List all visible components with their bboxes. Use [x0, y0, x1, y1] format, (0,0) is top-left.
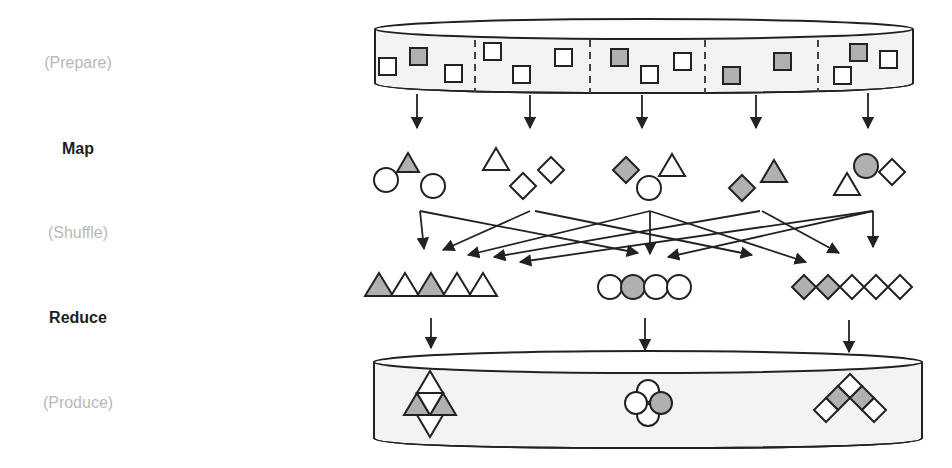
reduce-group-triangles — [365, 273, 497, 296]
diagram-canvas — [0, 0, 952, 468]
output-store-cylinder — [374, 351, 922, 448]
reduce-group-diamonds — [792, 275, 912, 299]
shuffle-arrows — [420, 211, 873, 262]
map-output-5 — [834, 154, 905, 195]
map-output-3 — [613, 154, 685, 200]
prepare-arrows — [417, 93, 868, 128]
input-store-cylinder — [375, 19, 913, 93]
map-output-2 — [483, 148, 564, 199]
produce-arrows — [431, 318, 849, 352]
mapreduce-diagram: (Prepare) Map (Shuffle) Reduce (Produce) — [0, 0, 952, 468]
map-output-1 — [374, 153, 445, 198]
reduce-group-circles — [598, 275, 691, 299]
map-output-4 — [729, 160, 787, 201]
